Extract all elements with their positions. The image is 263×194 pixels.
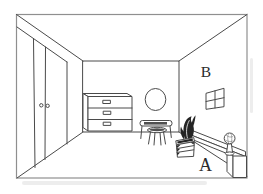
wardrobe <box>17 27 67 168</box>
drawer-handle-1 <box>103 100 111 103</box>
plant-leaf-tip <box>191 115 195 126</box>
door-knob-left <box>40 104 43 107</box>
vanity-leg-left <box>141 126 142 139</box>
scan-smudge-right <box>250 58 253 113</box>
globe-stand-base <box>225 152 234 155</box>
stool-leg-4 <box>164 132 166 144</box>
vanity-mirror <box>145 89 166 111</box>
window <box>206 88 224 109</box>
room-drawing: B A <box>0 0 263 194</box>
vanity-drawer-shade <box>144 122 167 125</box>
floor-edge-left <box>17 132 83 178</box>
pedestal-front-face <box>233 156 247 178</box>
stool-leg-1 <box>149 132 151 144</box>
room-scene: B A <box>0 0 263 194</box>
vanity-leg-right <box>170 126 171 138</box>
door-knob-right <box>46 104 49 107</box>
ceiling-edge-left <box>17 15 84 62</box>
drawer-handle-3 <box>103 122 111 125</box>
scan-smudge-bottom <box>22 181 207 185</box>
wardrobe-door-divider <box>45 47 46 160</box>
wardrobe-left-edge <box>34 39 36 168</box>
stool-leg-3 <box>160 132 161 145</box>
stool-leg-2 <box>154 132 155 145</box>
stool-seat-shade <box>149 128 165 131</box>
dresser-side-face <box>83 94 88 132</box>
globe-sphere <box>224 133 235 144</box>
dresser <box>83 94 132 132</box>
label-a: A <box>199 155 212 175</box>
ceiling-edge-right <box>179 15 247 62</box>
vanity <box>140 89 172 146</box>
drawer-handle-2 <box>103 111 111 114</box>
label-b: B <box>201 63 211 80</box>
bench-top-face <box>191 130 246 157</box>
